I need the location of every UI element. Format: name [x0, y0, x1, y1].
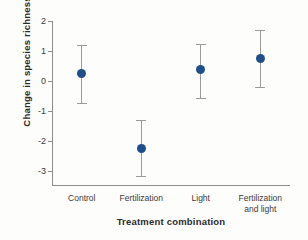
y-axis-line — [52, 21, 53, 186]
data-marker — [256, 54, 265, 63]
x-tick-label-line: Fertilization — [239, 193, 282, 204]
error-bar-cap-lower — [77, 103, 87, 104]
y-tick-mark — [48, 51, 53, 52]
data-marker — [77, 69, 86, 78]
plot-area: 210-1-2-3 ControlFertilizationLightFerti… — [52, 21, 290, 186]
y-tick-label: -1 — [38, 106, 46, 116]
x-tick-label-line: Control — [68, 193, 95, 204]
y-tick-label: 1 — [41, 46, 46, 56]
y-tick-mark — [48, 81, 53, 82]
error-bar-chart: Change in species richness 210-1-2-3 Con… — [0, 0, 308, 240]
error-bar-cap-upper — [255, 30, 265, 31]
x-tick-label: Control — [68, 193, 95, 204]
y-tick-label: 2 — [41, 16, 46, 26]
y-tick-mark — [48, 141, 53, 142]
error-bar-cap-upper — [77, 45, 87, 46]
x-tick-label-line: Light — [192, 193, 210, 204]
y-tick-mark — [48, 21, 53, 22]
x-tick-label-line: Fertilization — [120, 193, 163, 204]
y-tick-label: -2 — [38, 136, 46, 146]
y-tick-label: -3 — [38, 166, 46, 176]
y-axis-title: Change in species richness — [21, 0, 32, 142]
x-tick-label: Fertilizationand light — [239, 193, 282, 215]
x-axis-title: Treatment combination — [52, 216, 290, 227]
error-bar-cap-upper — [196, 44, 206, 45]
error-bar-cap-lower — [255, 87, 265, 88]
y-tick-mark — [48, 111, 53, 112]
x-axis-line — [52, 185, 290, 186]
data-marker — [137, 144, 146, 153]
x-tick-label-line: and light — [239, 204, 282, 215]
data-marker — [196, 65, 205, 74]
error-bar-cap-lower — [136, 176, 146, 177]
y-tick-label: 0 — [41, 76, 46, 86]
error-bar-cap-lower — [196, 98, 206, 99]
x-tick-label: Light — [192, 193, 210, 204]
error-bar-cap-upper — [136, 120, 146, 121]
y-tick-mark — [48, 171, 53, 172]
x-tick-label: Fertilization — [120, 193, 163, 204]
